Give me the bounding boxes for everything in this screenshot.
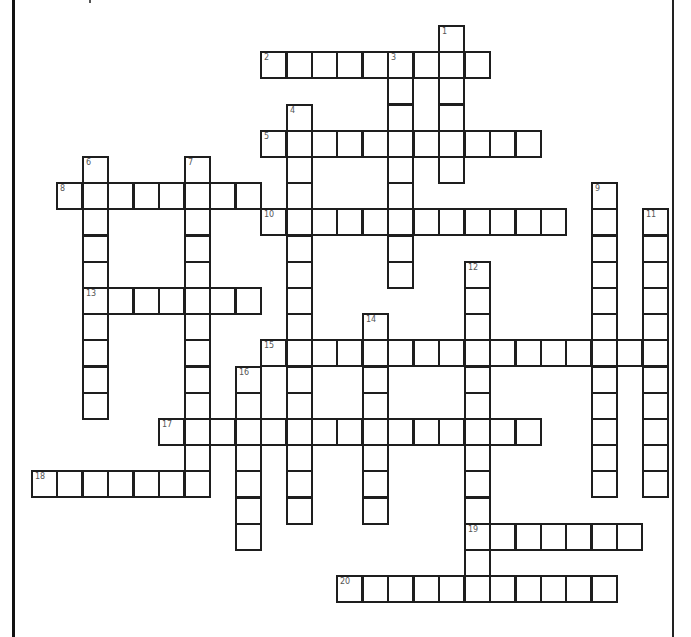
cell-letter-input[interactable]: [593, 577, 616, 601]
cell-letter-input[interactable]: [466, 341, 489, 365]
crossword-cell[interactable]: [464, 392, 491, 420]
crossword-cell[interactable]: [82, 182, 109, 210]
cell-letter-input[interactable]: [237, 368, 260, 392]
cell-letter-input[interactable]: [160, 420, 183, 444]
cell-letter-input[interactable]: [135, 184, 158, 208]
cell-letter-input[interactable]: [186, 368, 209, 392]
crossword-cell[interactable]: [464, 549, 491, 577]
cell-letter-input[interactable]: [364, 577, 387, 601]
crossword-cell[interactable]: [184, 470, 211, 498]
crossword-cell[interactable]: [311, 130, 338, 158]
cell-letter-input[interactable]: [288, 420, 311, 444]
crossword-cell[interactable]: [413, 208, 440, 236]
crossword-cell[interactable]: [642, 339, 669, 367]
crossword-cell[interactable]: [362, 418, 389, 446]
cell-letter-input[interactable]: [262, 420, 285, 444]
crossword-cell[interactable]: [311, 208, 338, 236]
cell-letter-input[interactable]: [313, 210, 336, 234]
cell-letter-input[interactable]: [644, 263, 667, 287]
crossword-cell[interactable]: [616, 339, 643, 367]
cell-letter-input[interactable]: [466, 132, 489, 156]
crossword-cell[interactable]: [286, 313, 313, 341]
crossword-cell[interactable]: [515, 523, 542, 551]
crossword-cell[interactable]: [387, 156, 414, 184]
cell-letter-input[interactable]: [517, 341, 540, 365]
cell-letter-input[interactable]: [440, 27, 463, 51]
cell-letter-input[interactable]: [313, 132, 336, 156]
cell-letter-input[interactable]: [84, 184, 107, 208]
cell-letter-input[interactable]: [58, 472, 81, 496]
crossword-cell[interactable]: [591, 523, 618, 551]
cell-letter-input[interactable]: [84, 263, 107, 287]
cell-letter-input[interactable]: [84, 315, 107, 339]
cell-letter-input[interactable]: [288, 499, 311, 523]
crossword-cell[interactable]: [591, 366, 618, 394]
crossword-cell[interactable]: [540, 523, 567, 551]
cell-letter-input[interactable]: [288, 132, 311, 156]
crossword-cell[interactable]: [489, 208, 516, 236]
crossword-cell[interactable]: [82, 470, 109, 498]
cell-letter-input[interactable]: [338, 53, 361, 77]
crossword-cell[interactable]: [565, 339, 592, 367]
crossword-cell[interactable]: [616, 523, 643, 551]
crossword-cell[interactable]: [158, 182, 185, 210]
cell-letter-input[interactable]: [593, 289, 616, 313]
cell-letter-input[interactable]: [262, 132, 285, 156]
cell-letter-input[interactable]: [84, 341, 107, 365]
cell-letter-input[interactable]: [288, 263, 311, 287]
cell-letter-input[interactable]: [466, 446, 489, 470]
cell-letter-input[interactable]: [364, 420, 387, 444]
cell-letter-input[interactable]: [440, 420, 463, 444]
crossword-cell[interactable]: [438, 575, 465, 603]
cell-letter-input[interactable]: [288, 472, 311, 496]
cell-letter-input[interactable]: [618, 341, 641, 365]
cell-letter-input[interactable]: [288, 53, 311, 77]
crossword-cell[interactable]: [82, 339, 109, 367]
crossword-cell[interactable]: [591, 235, 618, 263]
cell-letter-input[interactable]: [491, 341, 514, 365]
crossword-cell[interactable]: [464, 575, 491, 603]
crossword-cell[interactable]: [540, 339, 567, 367]
crossword-cell[interactable]: [413, 130, 440, 158]
crossword-cell[interactable]: [591, 575, 618, 603]
cell-letter-input[interactable]: [466, 420, 489, 444]
cell-letter-input[interactable]: [364, 132, 387, 156]
crossword-cell[interactable]: [82, 392, 109, 420]
crossword-cell[interactable]: [184, 313, 211, 341]
crossword-cell[interactable]: [591, 261, 618, 289]
crossword-cell[interactable]: [286, 366, 313, 394]
cell-letter-input[interactable]: [160, 289, 183, 313]
crossword-cell[interactable]: [464, 339, 491, 367]
cell-letter-input[interactable]: [415, 341, 438, 365]
cell-letter-input[interactable]: [466, 472, 489, 496]
cell-letter-input[interactable]: [491, 132, 514, 156]
crossword-cell[interactable]: [362, 392, 389, 420]
crossword-cell[interactable]: [184, 444, 211, 472]
crossword-cell[interactable]: [515, 418, 542, 446]
cell-letter-input[interactable]: [466, 289, 489, 313]
crossword-cell[interactable]: [642, 261, 669, 289]
crossword-cell[interactable]: [184, 392, 211, 420]
crossword-cell[interactable]: [489, 523, 516, 551]
crossword-cell[interactable]: [387, 182, 414, 210]
cell-letter-input[interactable]: [237, 420, 260, 444]
crossword-cell[interactable]: [413, 575, 440, 603]
cell-letter-input[interactable]: [567, 577, 590, 601]
crossword-cell[interactable]: [387, 130, 414, 158]
cell-letter-input[interactable]: [84, 472, 107, 496]
cell-letter-input[interactable]: [567, 525, 590, 549]
cell-letter-input[interactable]: [517, 210, 540, 234]
cell-letter-input[interactable]: [84, 158, 107, 182]
crossword-cell[interactable]: [82, 261, 109, 289]
crossword-cell[interactable]: [362, 497, 389, 525]
cell-letter-input[interactable]: [58, 184, 81, 208]
crossword-cell[interactable]: 6: [82, 156, 109, 184]
crossword-cell[interactable]: [387, 418, 414, 446]
crossword-cell[interactable]: [286, 497, 313, 525]
crossword-cell[interactable]: [413, 51, 440, 79]
crossword-cell[interactable]: [464, 130, 491, 158]
crossword-cell[interactable]: [286, 182, 313, 210]
cell-letter-input[interactable]: [440, 210, 463, 234]
cell-letter-input[interactable]: [466, 551, 489, 575]
crossword-cell[interactable]: 4: [286, 104, 313, 132]
